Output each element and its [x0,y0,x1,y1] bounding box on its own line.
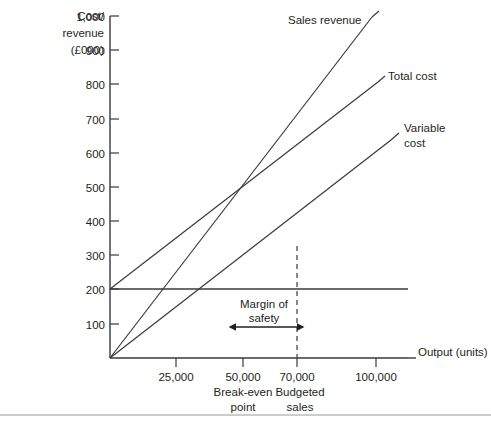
y-axis-tick-label-600: 600 [86,148,105,160]
budgeted-caption-line1: Budgeted [275,386,324,398]
leader-variable-cost [391,133,399,140]
x-axis-title: Output (units) [418,346,488,358]
y-axis-tick-label-1000: 1,000 [76,11,105,23]
x-axis-tick-label-25000: 25,000 [158,371,193,383]
y-axis-tick-label-800: 800 [86,79,105,91]
series-label-variable-cost-line1: Variable [404,122,445,134]
y-axis-tick-label-100: 100 [86,319,105,331]
series-variable-cost [110,140,391,358]
leader-sales-revenue [372,11,379,17]
breakeven-caption-line2: point [231,401,257,413]
margin-of-safety-label-line2: safety [249,312,280,324]
breakeven-chart: Cost/ revenue (£000) 1,000 1,000 1,000 1… [0,0,491,425]
y-axis-title-line2: revenue [62,27,104,39]
y-axis-tick-label-700: 700 [86,114,105,126]
x-axis-tick-label-70000: 70,000 [279,371,314,383]
leader-total-cost [378,76,385,82]
series-label-variable-cost-line2: cost [404,137,426,149]
series-label-sales-revenue: Sales revenue [288,14,362,26]
y-axis-tick-label-400: 400 [86,216,105,228]
margin-of-safety-label-line1: Margin of [240,298,289,310]
x-axis-tick-label-100000: 100,000 [355,371,397,383]
breakeven-caption-line1: Break-even [214,386,273,398]
x-axis-tick-label-50000: 50,000 [225,371,260,383]
series-total-cost [110,82,378,289]
series-label-total-cost: Total cost [388,70,437,82]
y-axis-tick-label-900: 900 [86,45,105,57]
y-axis-tick-label-500: 500 [86,182,105,194]
y-axis-tick-label-200: 200 [86,284,105,296]
y-axis-tick-label-300: 300 [86,250,105,262]
budgeted-caption-line2: sales [287,401,314,413]
